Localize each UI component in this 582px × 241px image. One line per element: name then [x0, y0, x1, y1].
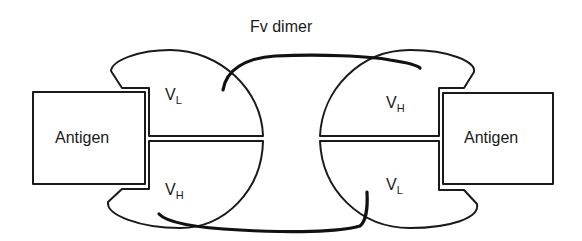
left-bottom-domain-label: VH — [165, 181, 184, 201]
right-fv-unit: Antigen VH VL — [320, 50, 553, 228]
right-antigen-label: Antigen — [464, 129, 518, 146]
fv-dimer-diagram: Fv dimer Antigen VL VH Antigen VH — [0, 0, 582, 241]
right-top-domain-label: VH — [386, 94, 405, 114]
right-bottom-domain-label: VL — [386, 176, 403, 196]
left-top-domain-label: VL — [165, 86, 182, 106]
diagram-title: Fv dimer — [250, 18, 313, 35]
top-linker — [223, 55, 420, 90]
left-antigen-label: Antigen — [55, 129, 109, 146]
bottom-linker — [159, 192, 367, 232]
